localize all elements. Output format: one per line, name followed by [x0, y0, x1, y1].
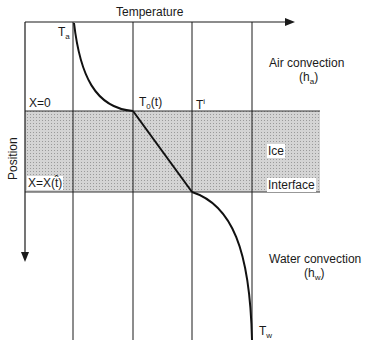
t0-label: T0(t): [138, 95, 163, 114]
air-convection-label: Air convection: [268, 56, 345, 70]
x-interface-label: X=X(t̂): [27, 176, 63, 190]
position-axis-label: Position: [6, 137, 20, 180]
t-w-label: Tw: [258, 324, 273, 343]
position-axis-arrow-icon: [21, 252, 29, 262]
ice-label: Ice: [267, 144, 285, 158]
x-zero-label: X=0: [28, 96, 52, 110]
interface-label: Interface: [267, 178, 316, 192]
temperature-axis-label: Temperature: [115, 5, 184, 19]
t-a-label: Ta: [57, 25, 71, 44]
water-convection-label: Water convection: [268, 252, 362, 266]
water-temperature-curve: [192, 192, 252, 340]
air-temperature-curve: [74, 23, 133, 111]
water-convection-coefficient: (hw): [303, 266, 325, 285]
temperature-axis-arrow-icon: [285, 18, 295, 26]
air-convection-coefficient: (ha): [298, 70, 319, 89]
ti-label: Ti: [195, 95, 206, 112]
